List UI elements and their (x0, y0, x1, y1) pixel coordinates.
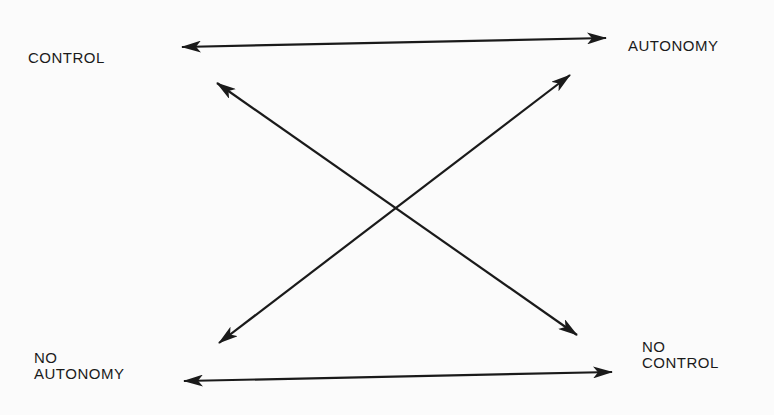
arrows-canvas (0, 0, 774, 415)
arrow-control-autonomy (182, 38, 606, 47)
arrow-no-autonomy-no-control (184, 372, 612, 381)
arrow-control-no-control (217, 83, 577, 335)
arrow-autonomy-no-autonomy (219, 75, 570, 343)
